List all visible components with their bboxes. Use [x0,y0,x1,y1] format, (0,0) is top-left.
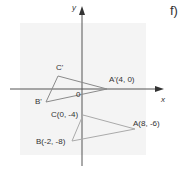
diagram-stage: f) y x 0 C' A'(4, 0) B' C(0, -4) A(8, -6… [0,0,182,175]
origin-label: 0 [76,91,80,99]
x-axis-arrow-icon [155,86,164,92]
point-label-b-prime: B' [35,98,42,106]
part-label: f) [170,4,178,17]
point-label-a: A(8, -6) [133,120,160,128]
point-label-c-prime: C' [56,64,63,72]
point-label-a-prime: A'(4, 0) [109,76,135,84]
coordinate-plane [0,0,182,175]
point-label-c: C(0, -4) [51,111,78,119]
x-axis-label: x [161,96,165,104]
y-axis-arrow-icon [79,6,85,15]
y-axis-label: y [72,4,76,12]
point-label-b: B(-2, -8) [36,138,65,146]
